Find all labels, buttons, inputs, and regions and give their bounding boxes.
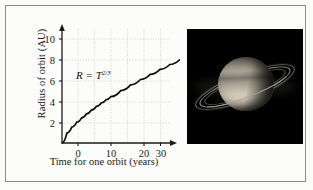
equation-annotation: R = T2/3 <box>75 69 111 81</box>
orbit-radius-chart: 10 8 6 4 2 0 10 20 30 R = T2/3 Radius of… <box>20 16 180 176</box>
x-axis-label: Time for one orbit (years) <box>24 156 184 167</box>
y-tick-label: 4 <box>50 97 56 108</box>
planetary-orbit-figure: 10 8 6 4 2 0 10 20 30 R = T2/3 Radius of… <box>0 0 313 190</box>
grid-vertical <box>78 29 161 143</box>
y-tick-label: 8 <box>50 55 55 66</box>
x-axis-arrow <box>170 140 177 146</box>
orbit-radius-curve <box>62 46 180 143</box>
y-axis-arrow <box>59 24 65 31</box>
figure-frame: 10 8 6 4 2 0 10 20 30 R = T2/3 Radius of… <box>5 5 306 182</box>
saturn-photograph <box>187 29 303 144</box>
y-axis-label: Radius of orbit (AU) <box>36 22 47 126</box>
y-tick-label: 6 <box>50 76 55 87</box>
y-tick-label: 2 <box>50 118 55 129</box>
